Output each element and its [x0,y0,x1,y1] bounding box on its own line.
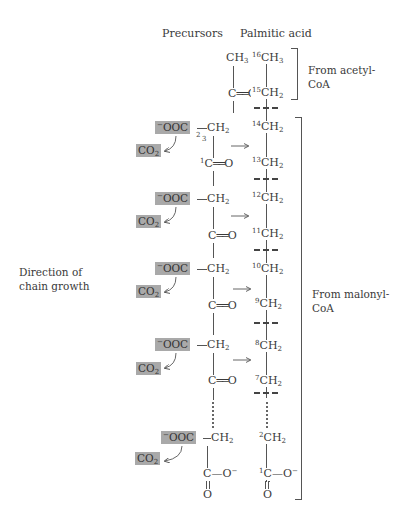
curved-arrow-icon [165,136,182,461]
arrows-layer [0,0,394,523]
right-arrow-icon [231,146,250,360]
